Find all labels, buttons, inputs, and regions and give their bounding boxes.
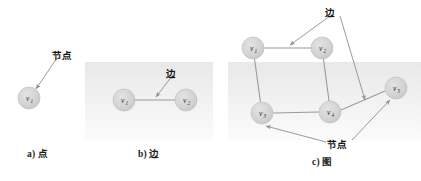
caption-panel-a: a) 点 [27, 146, 48, 160]
node-a-v1-sub: 1 [31, 98, 34, 104]
caption-panel-b: b) 边 [138, 146, 160, 160]
caption-panel-c: c) 图 [312, 154, 333, 168]
node-a-v1[interactable]: v 1 [18, 87, 40, 109]
node-c-v1-sub: 1 [255, 48, 258, 54]
node-c-v2-sub: 2 [324, 48, 327, 54]
node-c-v5-sub: 5 [398, 88, 401, 94]
node-c-v4[interactable]: v 4 [319, 101, 341, 123]
figure-canvas: v 1 v 1 v 2 [0, 0, 421, 181]
pointer-a-node [36, 58, 57, 89]
node-c-v5[interactable]: v 5 [385, 77, 407, 99]
annotation-c-node: 节点 [327, 137, 347, 151]
annotation-a-node: 节点 [52, 48, 72, 62]
node-c-v4-sub: 4 [332, 112, 335, 118]
node-c-v3[interactable]: v 3 [251, 102, 273, 124]
panel-a-point: v 1 [18, 58, 57, 109]
node-c-v3-sub: 3 [264, 113, 267, 119]
node-b-v2-sub: 2 [188, 100, 191, 106]
node-b-v1[interactable]: v 1 [113, 89, 135, 111]
node-c-v1[interactable]: v 1 [242, 37, 264, 59]
node-b-v1-sub: 1 [126, 100, 129, 106]
annotation-c-edge: 边 [325, 5, 335, 19]
node-c-v2[interactable]: v 2 [311, 37, 333, 59]
background-shading [85, 62, 421, 140]
annotation-b-edge: 边 [166, 66, 176, 80]
node-b-v2[interactable]: v 2 [175, 89, 197, 111]
graph-concept-figure: v 1 v 1 v 2 [0, 0, 421, 181]
